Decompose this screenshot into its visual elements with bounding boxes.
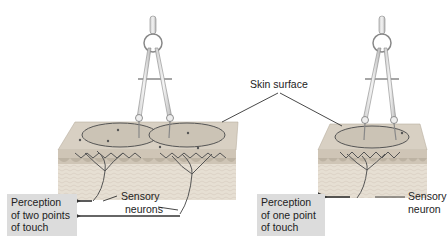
skin-surface-leaders — [222, 93, 342, 126]
right-skin-block — [318, 124, 427, 198]
sensory-neuron-label: Sensory neuron — [408, 190, 447, 215]
two-point-line2: of two points — [11, 209, 73, 222]
right-compass — [362, 16, 400, 140]
sensory-neurons-label: Sensory neurons — [121, 190, 163, 215]
one-point-perception-box: Perception of one point of touch — [257, 194, 325, 236]
sensory-neuron-line2: neuron — [408, 203, 447, 216]
one-point-line2: of one point — [261, 209, 321, 222]
two-point-line3: of touch — [11, 221, 73, 234]
sensory-neurons-line1: Sensory — [121, 190, 163, 203]
one-point-line3: of touch — [261, 221, 321, 234]
sensory-neuron-line1: Sensory — [408, 190, 447, 203]
sensory-neurons-line2: neurons — [125, 203, 163, 216]
left-compass — [136, 16, 174, 138]
one-point-line1: Perception — [261, 196, 321, 209]
two-point-perception-box: Perception of two points of touch — [7, 194, 77, 236]
skin-surface-label: Skin surface — [250, 78, 308, 91]
two-point-line1: Perception — [11, 196, 73, 209]
